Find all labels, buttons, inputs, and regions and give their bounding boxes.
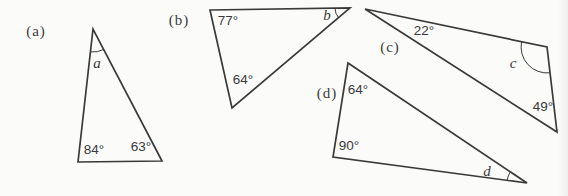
angle-d-arc [507,172,510,180]
part-label-a: (a) [26,24,46,39]
part-label-c: (c) [380,40,400,55]
unknown-angle-b: b [323,8,331,23]
angle-value-c2: 49° [533,100,553,114]
unknown-angle-d: d [483,164,491,179]
angle-value-a1: 84° [84,143,104,157]
angle-value-b1: 77° [218,14,238,28]
triangle-d-outline [333,63,527,183]
angle-value-a2: 63° [131,140,151,154]
angle-b-arc [335,8,339,18]
angle-value-d2: 90° [339,139,359,153]
unknown-angle-a: a [93,56,101,71]
unknown-angle-c: c [510,56,517,71]
triangle-c-outline [365,9,557,132]
part-label-b: (b) [169,13,190,28]
angle-value-d1: 64° [348,83,368,97]
textbook-triangle-figure: (a) a 84° 63° (b) 77° b 64° (c) 22° c 49… [0,0,568,196]
angle-value-c1: 22° [414,24,434,38]
part-label-d: (d) [317,86,338,101]
angle-a-arc [90,49,103,52]
angle-value-b2: 64° [233,73,253,87]
